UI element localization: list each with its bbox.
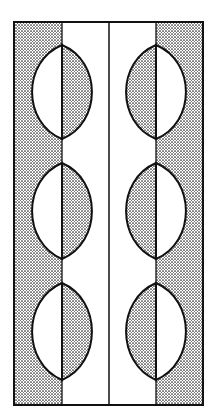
lens-0-1-shaded-half (62, 163, 92, 259)
lens-1-2-shaded-half (126, 283, 156, 380)
lens-1-1-shaded-half (126, 163, 156, 259)
lens-1-0-shaded-half (126, 45, 156, 139)
lens-diagram (0, 0, 215, 420)
lens-0-0-shaded-half (62, 45, 92, 139)
lens-0-2-shaded-half (62, 283, 92, 380)
